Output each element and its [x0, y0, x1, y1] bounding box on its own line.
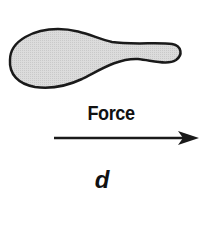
paddle-object-shape [10, 29, 181, 88]
force-label: Force [84, 101, 137, 125]
displacement-label: d [90, 168, 114, 192]
